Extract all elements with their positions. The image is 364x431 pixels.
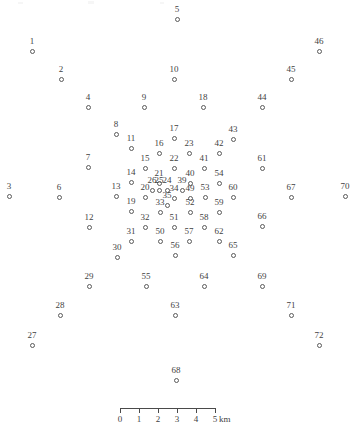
site-label: 44 <box>258 93 267 102</box>
site-marker-circle-icon <box>217 210 222 215</box>
site-label: 57 <box>185 227 194 236</box>
site-marker-circle-icon <box>180 188 185 193</box>
scalebar-tick-label: 1 <box>137 414 142 424</box>
site-marker-circle-icon <box>115 255 120 260</box>
site-marker-circle-icon <box>129 146 134 151</box>
site-label: 41 <box>200 154 209 163</box>
site-marker-circle-icon <box>289 313 294 318</box>
site-marker-circle-icon <box>174 378 179 383</box>
site-label: 18 <box>199 93 208 102</box>
site-label: 61 <box>258 154 267 163</box>
site-marker-circle-icon <box>86 165 91 170</box>
site-marker-circle-icon <box>129 180 134 185</box>
site-label: 51 <box>170 213 179 222</box>
site-marker-circle-icon <box>202 166 207 171</box>
site-marker-circle-icon <box>57 195 62 200</box>
site-marker-circle-icon <box>144 284 149 289</box>
site-label: 62 <box>215 227 224 236</box>
site-label: 70 <box>341 182 350 191</box>
site-marker-circle-icon <box>150 188 155 193</box>
site-label: 43 <box>229 125 238 134</box>
site-label: 59 <box>215 198 224 207</box>
site-label: 10 <box>170 65 179 74</box>
site-marker-circle-icon <box>260 105 265 110</box>
site-marker-circle-icon <box>157 151 162 156</box>
site-marker-circle-icon <box>158 239 163 244</box>
site-marker-circle-icon <box>317 343 322 348</box>
site-label: 17 <box>170 124 179 133</box>
site-label: 23 <box>185 139 194 148</box>
site-label: 55 <box>142 272 151 281</box>
site-label: 7 <box>86 153 91 162</box>
scalebar-tick-label: 0 <box>118 414 123 424</box>
site-marker-circle-icon <box>30 49 35 54</box>
site-label: 31 <box>127 227 136 236</box>
scalebar-tick-label: 5 <box>213 414 218 424</box>
site-marker-circle-icon <box>87 284 92 289</box>
site-label: 12 <box>85 213 94 222</box>
site-label: 40 <box>186 169 195 178</box>
site-marker-circle-icon <box>173 253 178 258</box>
site-label: 49 <box>186 184 195 193</box>
site-label: 1 <box>30 37 35 46</box>
site-marker-circle-icon <box>203 195 208 200</box>
scalebar-tick-label: 4 <box>194 414 199 424</box>
site-marker-circle-icon <box>289 195 294 200</box>
site-label: 54 <box>215 169 224 178</box>
site-marker-circle-icon <box>289 77 294 82</box>
scalebar-tick <box>196 408 197 413</box>
site-label: 67 <box>287 183 296 192</box>
site-marker-circle-icon <box>30 343 35 348</box>
site-label: 32 <box>141 213 150 222</box>
site-label: 28 <box>56 301 65 310</box>
site-label: 71 <box>287 301 296 310</box>
site-marker-circle-icon <box>172 225 177 230</box>
site-marker-circle-icon <box>217 181 222 186</box>
site-marker-circle-icon <box>143 195 148 200</box>
site-label: 45 <box>287 65 296 74</box>
site-label: 42 <box>215 139 224 148</box>
site-marker-circle-icon <box>231 137 236 142</box>
site-marker-circle-icon <box>142 105 147 110</box>
scalebar-tick <box>177 408 178 413</box>
site-marker-circle-icon <box>129 239 134 244</box>
site-label: 4 <box>86 93 91 102</box>
site-label: 27 <box>28 331 37 340</box>
site-label: 3 <box>7 182 12 191</box>
site-label: 56 <box>171 241 180 250</box>
site-marker-circle-icon <box>114 194 119 199</box>
site-marker-circle-icon <box>143 166 148 171</box>
scalebar-tick-label: 2 <box>156 414 161 424</box>
site-marker-circle-icon <box>143 225 148 230</box>
site-label: 68 <box>172 366 181 375</box>
site-marker-circle-icon <box>7 194 12 199</box>
site-label: 6 <box>57 183 62 192</box>
site-label: 72 <box>315 331 324 340</box>
site-label: 30 <box>113 243 122 252</box>
site-marker-circle-icon <box>87 225 92 230</box>
site-label: 58 <box>200 213 209 222</box>
site-label: 35 <box>163 191 172 200</box>
site-label: 9 <box>142 93 147 102</box>
site-marker-circle-icon <box>86 105 91 110</box>
site-label: 11 <box>127 134 136 143</box>
site-label: 26 <box>148 176 157 185</box>
site-marker-circle-icon <box>202 284 207 289</box>
site-marker-circle-icon <box>165 203 170 208</box>
site-label: 53 <box>201 183 210 192</box>
site-label: 66 <box>258 212 267 221</box>
site-marker-circle-icon <box>260 284 265 289</box>
scalebar-unit-label: km <box>219 414 231 424</box>
site-label: 29 <box>85 272 94 281</box>
site-label: 64 <box>200 272 209 281</box>
site-marker-circle-icon <box>260 224 265 229</box>
site-marker-circle-icon <box>172 196 177 201</box>
site-marker-circle-icon <box>187 151 192 156</box>
site-label: 60 <box>229 183 238 192</box>
site-label: 16 <box>155 139 164 148</box>
scalebar-tick <box>120 408 121 413</box>
site-marker-circle-icon <box>217 151 222 156</box>
site-marker-circle-icon <box>157 188 162 193</box>
site-label: 65 <box>229 241 238 250</box>
site-marker-circle-icon <box>58 313 63 318</box>
